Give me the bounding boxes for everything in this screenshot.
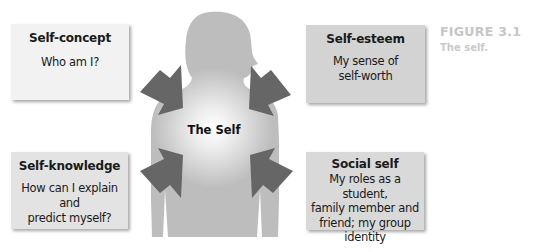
- social-self-line: My roles as a student,: [306, 172, 424, 201]
- self-knowledge-box: Self-knowledge How can I explain and pre…: [11, 152, 128, 229]
- social-self-line: friend; my group: [306, 216, 424, 231]
- self-concept-title: Self-concept: [11, 31, 129, 45]
- the-self-label: The Self: [182, 123, 246, 137]
- self-knowledge-line: How can I explain and: [11, 181, 128, 211]
- self-knowledge-line: predict myself?: [11, 211, 128, 226]
- self-esteem-box: Self-esteem My sense of self-worth: [306, 25, 425, 103]
- social-self-line: identity: [306, 230, 424, 245]
- self-esteem-line: self-worth: [306, 69, 425, 84]
- self-knowledge-body: How can I explain and predict myself?: [11, 181, 128, 226]
- figure-number: FIGURE 3.1: [440, 24, 521, 39]
- social-self-line: family member and: [306, 201, 424, 216]
- self-esteem-line: My sense of: [306, 54, 425, 69]
- self-esteem-title: Self-esteem: [306, 32, 425, 46]
- figure-caption: The self.: [440, 42, 488, 53]
- social-self-title: Social self: [306, 157, 424, 171]
- social-self-box: Social self My roles as a student, famil…: [306, 152, 424, 230]
- self-esteem-body: My sense of self-worth: [306, 54, 425, 84]
- self-concept-box: Self-concept Who am I?: [11, 24, 129, 100]
- self-knowledge-title: Self-knowledge: [11, 159, 128, 173]
- self-concept-body: Who am I?: [11, 55, 129, 70]
- social-self-body: My roles as a student, family member and…: [306, 172, 424, 245]
